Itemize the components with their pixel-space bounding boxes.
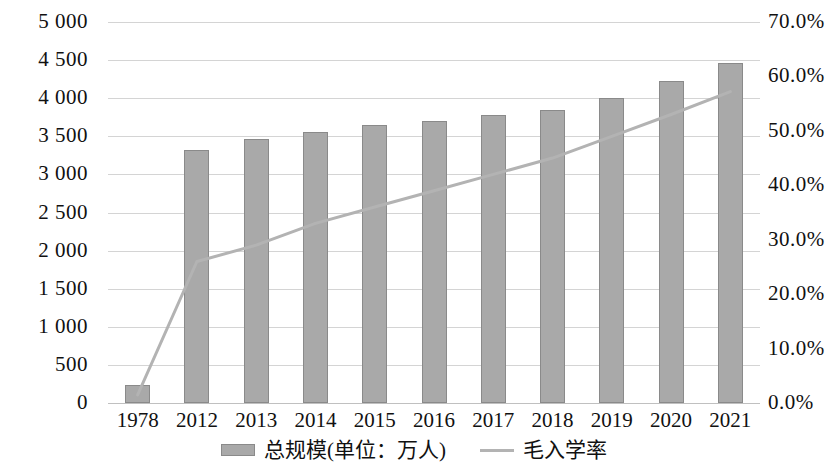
gridline bbox=[108, 60, 760, 61]
right-axis-tick-label: 40.0% bbox=[768, 174, 828, 195]
x-axis-tick-label: 2014 bbox=[286, 408, 345, 432]
chart-legend: 总规模(单位：万人)毛入学率 bbox=[0, 438, 828, 462]
x-axis-tick-label: 2015 bbox=[345, 408, 404, 432]
x-axis-tick-label: 2019 bbox=[582, 408, 641, 432]
x-axis-tick-label: 2012 bbox=[167, 408, 226, 432]
bar-2021 bbox=[718, 63, 743, 403]
right-axis-tick-label: 60.0% bbox=[768, 65, 828, 86]
left-axis-tick-label: 1 500 bbox=[0, 278, 88, 299]
x-axis-tick-label: 2020 bbox=[641, 408, 700, 432]
bar-2017 bbox=[481, 115, 506, 403]
x-axis-tick-label: 2017 bbox=[464, 408, 523, 432]
left-axis-tick-label: 4 500 bbox=[0, 49, 88, 70]
left-axis-tick-label: 500 bbox=[0, 354, 88, 375]
left-axis-tick-label: 2 500 bbox=[0, 202, 88, 223]
legend-item-2[interactable]: 毛入学率 bbox=[480, 438, 607, 462]
x-axis-tick-label: 2016 bbox=[404, 408, 463, 432]
left-axis-tick-label: 3 500 bbox=[0, 125, 88, 146]
x-axis-tick-label: 2021 bbox=[701, 408, 760, 432]
plot-area bbox=[108, 22, 760, 403]
right-axis-tick-label: 70.0% bbox=[768, 11, 828, 32]
bar-2013 bbox=[244, 139, 269, 403]
left-axis-tick-label: 3 000 bbox=[0, 163, 88, 184]
bar-2015 bbox=[362, 125, 387, 403]
bar-2018 bbox=[540, 110, 565, 403]
bar-2019 bbox=[599, 98, 624, 403]
legend-label: 毛入学率 bbox=[523, 438, 607, 462]
gridline bbox=[108, 403, 760, 404]
legend-bar-swatch-icon bbox=[221, 444, 255, 456]
bar-1978 bbox=[125, 385, 150, 403]
x-axis-tick-label: 2018 bbox=[523, 408, 582, 432]
left-axis-tick-label: 2 000 bbox=[0, 240, 88, 261]
bar-2012 bbox=[184, 150, 209, 403]
right-axis-tick-label: 10.0% bbox=[768, 338, 828, 359]
x-axis-tick-label: 2013 bbox=[227, 408, 286, 432]
left-axis-tick-label: 1 000 bbox=[0, 316, 88, 337]
chart-container: 05001 0001 5002 0002 5003 0003 5004 0004… bbox=[0, 0, 828, 473]
right-axis-tick-label: 30.0% bbox=[768, 229, 828, 250]
bar-2016 bbox=[422, 121, 447, 403]
legend-label: 总规模(单位：万人) bbox=[264, 438, 446, 462]
bar-2014 bbox=[303, 132, 328, 403]
gridline bbox=[108, 22, 760, 23]
left-axis-tick-label: 4 000 bbox=[0, 87, 88, 108]
x-axis-tick-label: 1978 bbox=[108, 408, 167, 432]
legend-item-1[interactable]: 总规模(单位：万人) bbox=[221, 438, 446, 462]
right-axis-tick-label: 20.0% bbox=[768, 283, 828, 304]
right-axis-tick-label: 50.0% bbox=[768, 120, 828, 141]
right-axis-tick-label: 0.0% bbox=[768, 392, 828, 413]
left-axis-tick-label: 0 bbox=[0, 392, 88, 413]
bar-2020 bbox=[659, 81, 684, 403]
legend-line-swatch-icon bbox=[480, 449, 514, 452]
left-axis-tick-label: 5 000 bbox=[0, 11, 88, 32]
